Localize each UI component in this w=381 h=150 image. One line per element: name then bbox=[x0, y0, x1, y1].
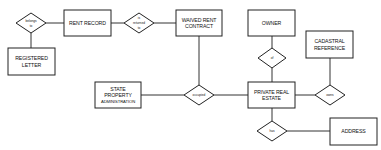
entity-label: CADASTRAL bbox=[314, 38, 344, 44]
relationship-has: has bbox=[257, 121, 287, 141]
relationship-occupied-by: occupied bbox=[184, 85, 214, 105]
entity-cadastral-reference: CADASTRAL REFERENCE bbox=[306, 31, 353, 58]
entity-label: ADMINISTRATION bbox=[101, 99, 135, 104]
relationship-label: returned bbox=[133, 21, 145, 25]
entity-label: RENT RECORD bbox=[69, 20, 106, 26]
entity-label: ESTATE bbox=[262, 95, 281, 101]
entity-owner: OWNER bbox=[248, 10, 295, 36]
er-diagram: RENT RECORD WAIVED RENT CONTRACT REGISTE… bbox=[0, 0, 381, 150]
entity-label: REGISTERED bbox=[15, 55, 48, 61]
entity-label: LETTER bbox=[22, 62, 42, 68]
relationship-label: occupied bbox=[193, 93, 206, 97]
relationship-label: owns bbox=[326, 93, 334, 97]
relationship-owns: owns bbox=[315, 85, 345, 105]
entity-label: REFERENCE bbox=[314, 45, 346, 51]
relationship-label: to bbox=[138, 26, 141, 30]
relationship-label: belongs bbox=[25, 19, 37, 23]
entity-label: CONTRACT bbox=[185, 23, 214, 29]
entity-label: OWNER bbox=[262, 20, 282, 26]
entity-rent-record: RENT RECORD bbox=[64, 10, 111, 36]
entity-label: ADDRESS bbox=[341, 128, 366, 134]
relationship-belongs-to: belongs to bbox=[16, 13, 46, 33]
relationship-label: is bbox=[138, 16, 141, 20]
entity-label: PROPERTY bbox=[104, 92, 132, 98]
connectors bbox=[31, 23, 330, 131]
relationship-is-returned: is returned to bbox=[124, 13, 154, 33]
entity-address: ADDRESS bbox=[330, 118, 377, 145]
relationship-of: of bbox=[258, 48, 286, 68]
relationship-label: to bbox=[30, 24, 33, 28]
entity-waived-rent-contract: WAIVED RENT CONTRACT bbox=[176, 10, 222, 36]
relationship-label: of bbox=[271, 56, 274, 60]
entity-state-property-administration: STATE PROPERTY ADMINISTRATION bbox=[95, 82, 141, 108]
relationship-label: has bbox=[269, 129, 275, 133]
entity-private-real-estate: PRIVATE REAL ESTATE bbox=[248, 82, 295, 108]
entity-registered-letter: REGISTERED LETTER bbox=[8, 48, 55, 75]
